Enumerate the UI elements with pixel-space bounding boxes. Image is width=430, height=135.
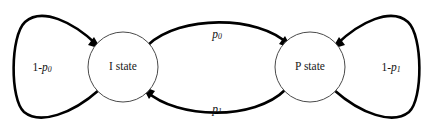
edge-label-i-to-p: p0	[211, 28, 222, 41]
edge-label-p-self-loop-prefix: 1-	[381, 61, 391, 73]
edge-label-p-self-loop-subscript: 1	[397, 65, 401, 74]
node-p-state[interactable]: P state	[275, 32, 345, 102]
node-p-state-label: P state	[295, 60, 325, 72]
edge-label-i-to-p-subscript: 0	[218, 32, 222, 41]
edge-p-self-loop-path	[334, 16, 419, 118]
edge-label-p-to-i: p1	[211, 103, 222, 116]
node-i-state[interactable]: I state	[88, 32, 158, 102]
state-transition-diagram: I state P state p0 p1 1-p0 1-p1	[0, 0, 430, 135]
edge-i-self-loop-path	[14, 16, 99, 118]
edge-label-i-self-loop-subscript: 0	[48, 65, 52, 74]
diagram-canvas: I state P state p0 p1 1-p0 1-p1	[0, 0, 430, 135]
edge-label-i-self-loop-prefix: 1-	[32, 61, 42, 73]
edge-label-p-to-i-subscript: 1	[218, 107, 222, 116]
node-i-state-label: I state	[109, 60, 137, 72]
edge-label-i-self-loop: 1-p0	[32, 61, 51, 74]
edge-label-p-self-loop: 1-p1	[381, 61, 400, 74]
